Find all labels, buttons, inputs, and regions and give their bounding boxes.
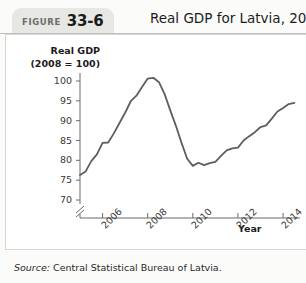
y-tick-label: 70 xyxy=(42,194,72,205)
y-tick-label: 100 xyxy=(42,75,72,86)
y-tick-label: 95 xyxy=(42,95,72,106)
figure-title: Real GDP for Latvia, 2005–2014 xyxy=(150,10,306,26)
y-tick-label: 85 xyxy=(42,135,72,146)
chart-plot-area: Real GDP (2008 = 100) Year 7075808590951… xyxy=(6,35,306,251)
source-label: Source: xyxy=(14,262,50,273)
y-tick-label: 90 xyxy=(42,115,72,126)
y-axis-title-line2: (2008 = 100) xyxy=(30,58,100,69)
y-tick-label: 75 xyxy=(42,174,72,185)
figure-number: 33-6 xyxy=(67,12,104,30)
figure-label: FIGURE xyxy=(22,17,61,27)
y-axis-title-line1: Real GDP xyxy=(51,45,100,56)
y-tick-label: 80 xyxy=(42,154,72,165)
figure-tab: FIGURE 33-6 xyxy=(12,8,114,34)
figure-header: FIGURE 33-6 Real GDP for Latvia, 2005–20… xyxy=(0,8,306,34)
y-axis-title: Real GDP (2008 = 100) xyxy=(14,45,100,70)
source-text: Central Statistical Bureau of Latvia. xyxy=(53,262,222,273)
source-note: Source: Central Statistical Bureau of La… xyxy=(14,262,222,273)
chart-panel: Real GDP (2008 = 100) Year 7075808590951… xyxy=(5,34,306,250)
figure-root: FIGURE 33-6 Real GDP for Latvia, 2005–20… xyxy=(0,0,306,283)
